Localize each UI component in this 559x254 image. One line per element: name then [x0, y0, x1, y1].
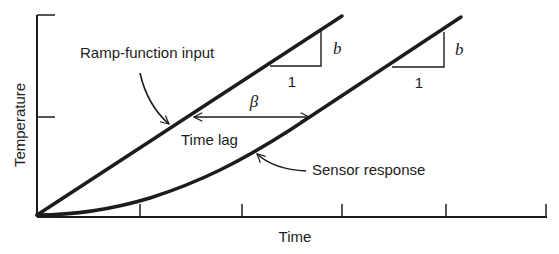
y-axis: [37, 15, 55, 217]
slope-run-label: 1: [288, 73, 296, 90]
beta-symbol: β: [249, 92, 259, 111]
y-axis-label: Temperature: [11, 83, 28, 167]
sensor-response-pointer-arrow: [257, 154, 306, 171]
slope-run-label-2: 1: [415, 74, 423, 91]
ramp-input-label: Ramp-function input: [80, 44, 215, 61]
sensor-response-label: Sensor response: [312, 161, 425, 178]
ramp-input-pointer-arrow: [140, 73, 169, 124]
time-lag-label: Time lag: [181, 131, 238, 148]
ramp-response-diagram: Time Temperature b 1 b 1 β Time lag Ramp…: [0, 0, 559, 254]
x-axis-label: Time: [279, 228, 312, 245]
slope-b-label: b: [333, 39, 342, 58]
slope-b-label-2: b: [455, 40, 464, 59]
